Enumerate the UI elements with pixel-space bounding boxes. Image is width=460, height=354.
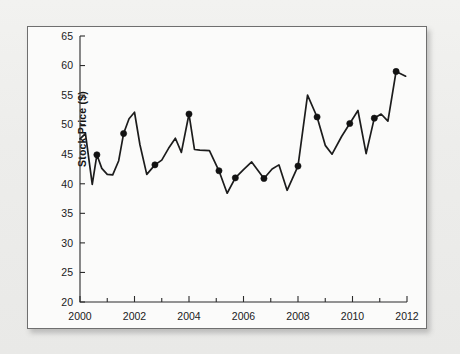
- x-tick-label: 2010: [341, 310, 365, 322]
- x-tick-label: 2002: [123, 310, 147, 322]
- data-point-marker: [393, 68, 399, 74]
- data-point-marker: [94, 152, 100, 158]
- data-point-marker: [232, 175, 238, 181]
- x-tick-label: 2012: [395, 310, 419, 322]
- figure-frame: Stock Price ($) 202530354045505560652000…: [27, 26, 427, 329]
- screenshot-page: Stock Price ($) 202530354045505560652000…: [0, 0, 460, 354]
- data-point-marker: [186, 111, 192, 117]
- data-point-marker: [371, 115, 377, 121]
- y-tick-label: 40: [61, 178, 73, 190]
- data-point-marker: [261, 175, 267, 181]
- data-point-marker: [121, 130, 127, 136]
- y-tick-label: 45: [61, 148, 73, 160]
- y-tick-label: 35: [61, 207, 73, 219]
- data-point-marker: [216, 168, 222, 174]
- y-tick-label: 65: [61, 30, 73, 42]
- y-tick-label: 60: [61, 59, 73, 71]
- data-point-marker: [295, 163, 301, 169]
- data-point-marker: [347, 120, 353, 126]
- y-tick-label: 55: [61, 89, 73, 101]
- y-tick-label: 50: [61, 118, 73, 130]
- data-point-marker: [152, 162, 158, 168]
- x-tick-label: 2004: [177, 310, 201, 322]
- y-tick-label: 30: [61, 237, 73, 249]
- x-tick-label: 2000: [68, 310, 92, 322]
- data-line-stock-price: [80, 71, 406, 193]
- y-tick-label: 25: [61, 266, 73, 278]
- line-chart-plot: 2025303540455055606520002002200420062008…: [28, 27, 428, 330]
- data-point-marker: [314, 114, 320, 120]
- x-tick-label: 2008: [286, 310, 310, 322]
- x-tick-label: 2006: [232, 310, 256, 322]
- y-tick-label: 20: [61, 296, 73, 308]
